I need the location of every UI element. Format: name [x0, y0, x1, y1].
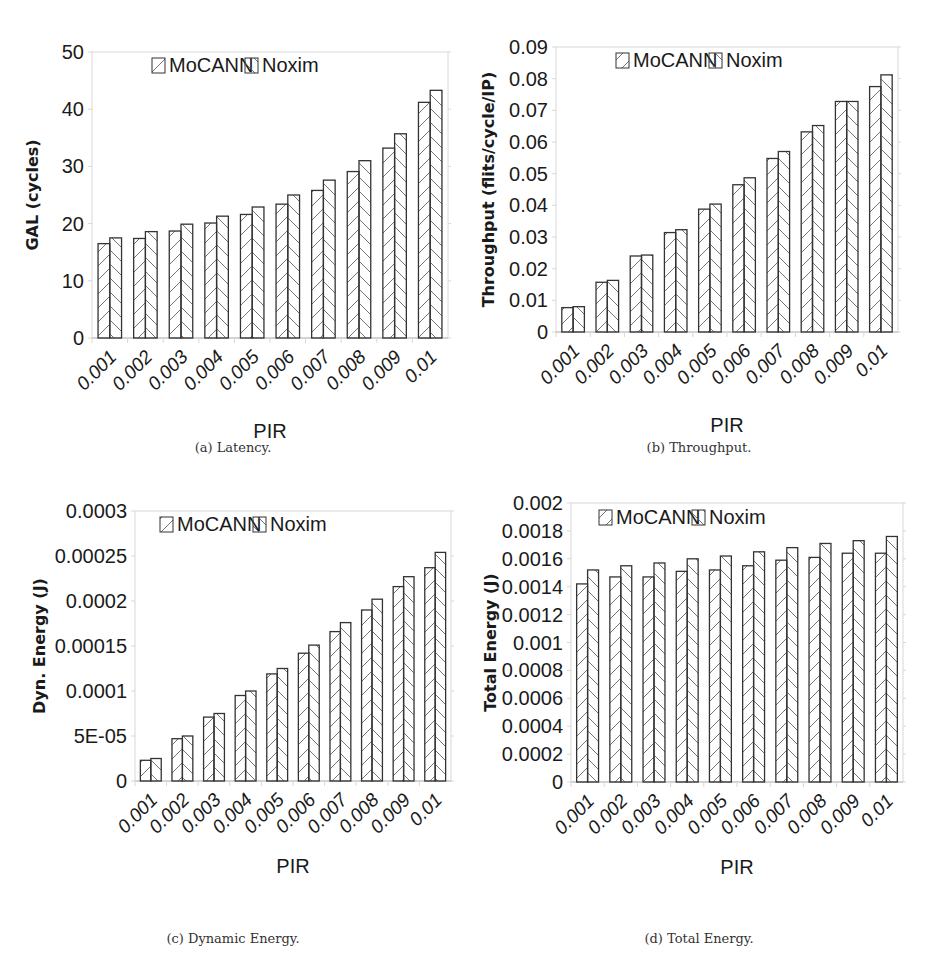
caption-throughput: (b) Throughput.: [466, 440, 932, 455]
y-tick-label: 0.09: [509, 36, 548, 58]
dynamic-energy-bar-chart: 05E-050.00010.000150.00020.000250.0003Dy…: [0, 483, 466, 923]
bar-mocann: [172, 739, 182, 781]
x-tick-label: 0.008: [321, 346, 370, 395]
y-tick-label: 0.07: [509, 99, 548, 121]
y-tick-label: 30: [62, 155, 84, 177]
legend-label-noxim: Noxim: [262, 54, 319, 76]
y-tick-label: 0.0004: [502, 715, 563, 737]
bar-noxim: [430, 90, 442, 338]
y-tick-label: 0.001: [513, 632, 563, 654]
caption-total-energy: (d) Total Energy.: [466, 931, 932, 946]
bar-noxim: [288, 195, 300, 338]
chart-panel-total-energy: 00.00020.00040.00060.00080.0010.00120.00…: [466, 483, 932, 966]
legend-label-mocann: MoCANN: [169, 54, 253, 76]
bar-mocann: [870, 87, 881, 332]
bar-noxim: [340, 623, 350, 781]
legend-label-mocann: MoCANN: [616, 506, 700, 528]
bar-noxim: [621, 566, 632, 782]
y-tick-label: 0.0003: [66, 500, 127, 522]
x-tick-label: 0.01: [400, 346, 441, 387]
x-tick-label: 0.01: [851, 340, 892, 381]
bar-noxim: [813, 126, 824, 332]
y-tick-label: 20: [62, 213, 84, 235]
legend-swatch-noxim: [692, 510, 705, 525]
bar-mocann: [577, 584, 588, 782]
legend: MoCANNNoxim: [599, 506, 766, 528]
y-axis-label: Throughput (flits/cycle/IP): [479, 72, 498, 308]
bar-mocann: [98, 244, 110, 338]
bar-mocann: [630, 256, 641, 332]
bar-noxim: [359, 161, 371, 338]
x-axis-label: PIR: [720, 856, 753, 878]
bar-mocann: [776, 560, 787, 782]
bar-noxim: [607, 280, 618, 332]
bar-mocann: [801, 132, 812, 332]
bar-mocann: [596, 282, 607, 332]
bar-noxim: [710, 204, 721, 332]
bar-mocann: [312, 190, 324, 338]
bar-noxim: [676, 230, 687, 332]
y-tick-label: 0.08: [509, 68, 548, 90]
legend-label-noxim: Noxim: [270, 513, 327, 535]
bar-noxim: [246, 691, 256, 781]
bar-noxim: [687, 559, 698, 782]
total-energy-bar-chart: 00.00020.00040.00060.00080.0010.00120.00…: [466, 483, 932, 923]
y-tick-label: 0.03: [509, 226, 548, 248]
legend-label-noxim: Noxim: [709, 506, 766, 528]
bar-noxim: [182, 736, 192, 781]
y-tick-label: 0: [552, 771, 563, 793]
y-tick-label: 0.002: [513, 492, 563, 514]
y-tick-label: 0.04: [509, 194, 548, 216]
bar-noxim: [787, 548, 798, 782]
bar-noxim: [720, 556, 731, 782]
y-tick-label: 0.05: [509, 163, 548, 185]
bar-mocann: [134, 238, 146, 338]
chart-panel-dynamic-energy: 05E-050.00010.000150.00020.000250.0003Dy…: [0, 483, 466, 966]
y-tick-label: 50: [62, 41, 84, 63]
y-tick-label: 0: [116, 770, 127, 792]
y-tick-label: 0.00025: [55, 545, 127, 567]
x-tick-label: 0.009: [809, 340, 858, 389]
x-tick-label: 0.003: [143, 346, 192, 395]
bar-mocann: [330, 632, 340, 781]
y-axis-label: Total Energy (J): [481, 573, 500, 711]
caption-dynamic-energy: (c) Dynamic Energy.: [0, 931, 466, 946]
bar-noxim: [820, 543, 831, 782]
bar-noxim: [395, 134, 407, 338]
legend-label-mocann: MoCANN: [633, 49, 717, 71]
bar-mocann: [610, 577, 621, 782]
bar-mocann: [709, 570, 720, 782]
bar-mocann: [205, 223, 217, 338]
bar-mocann: [383, 148, 395, 338]
bar-noxim: [214, 714, 224, 782]
bar-mocann: [767, 158, 778, 332]
bar-mocann: [276, 204, 288, 338]
bar-mocann: [235, 696, 245, 782]
legend: MoCANNNoxim: [160, 513, 327, 535]
y-tick-label: 0.0018: [502, 520, 563, 542]
bar-mocann: [204, 717, 214, 781]
y-tick-label: 0.0008: [502, 659, 563, 681]
bar-mocann: [699, 209, 710, 332]
bar-mocann: [418, 102, 430, 338]
y-axis-label: GAL (cycles): [23, 139, 42, 250]
y-tick-label: 0.06: [509, 131, 548, 153]
y-tick-label: 0.0006: [502, 687, 563, 709]
y-tick-label: 0.00015: [55, 635, 127, 657]
x-axis-label: PIR: [710, 414, 743, 436]
x-tick-label: 0.009: [357, 346, 406, 395]
x-axis-label: PIR: [253, 420, 286, 440]
caption-latency: (a) Latency.: [0, 440, 466, 455]
bar-noxim: [181, 224, 193, 338]
y-tick-label: 0.0002: [502, 743, 563, 765]
bar-noxim: [151, 759, 161, 782]
legend-swatch-noxim: [253, 517, 266, 532]
bar-noxim: [847, 101, 858, 332]
bar-mocann: [562, 308, 573, 332]
bar-mocann: [393, 587, 403, 781]
bar-mocann: [347, 172, 359, 338]
y-tick-label: 0.0014: [502, 576, 563, 598]
bar-noxim: [853, 541, 864, 782]
latency-bar-chart: 01020304050GAL (cycles)0.0010.0020.0030.…: [0, 0, 466, 440]
bar-mocann: [169, 231, 181, 338]
